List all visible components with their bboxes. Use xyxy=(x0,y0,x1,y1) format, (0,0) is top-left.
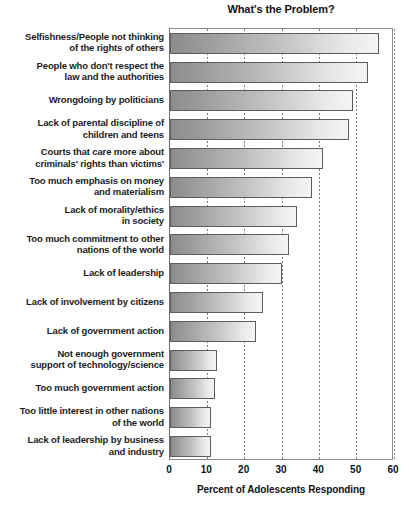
bar[interactable] xyxy=(170,33,379,54)
x-axis-tick-labels: 0102030405060 xyxy=(0,464,409,480)
bar[interactable] xyxy=(170,206,297,227)
bar-chart: What's the Problem? Selfishness/People n… xyxy=(0,0,409,509)
bar-row xyxy=(170,202,394,231)
bar[interactable] xyxy=(170,378,215,399)
category-label: Too much government action xyxy=(0,382,164,394)
x-tick-label-30: 30 xyxy=(261,464,301,475)
bar-row xyxy=(170,317,394,346)
bar[interactable] xyxy=(170,436,211,457)
x-tick-label-0: 0 xyxy=(149,464,189,475)
category-label: Lack of morality/ethics in society xyxy=(0,204,164,227)
category-label: Lack of government action xyxy=(0,325,164,337)
bar-row xyxy=(170,87,394,116)
bar[interactable] xyxy=(170,177,312,198)
bar-row xyxy=(170,432,394,461)
bar-row xyxy=(170,29,394,58)
plot-area xyxy=(169,28,393,460)
chart-title: What's the Problem? xyxy=(169,3,393,15)
bar-row xyxy=(170,115,394,144)
bar[interactable] xyxy=(170,350,217,371)
bar[interactable] xyxy=(170,321,256,342)
bar[interactable] xyxy=(170,407,211,428)
x-tick-label-60: 60 xyxy=(373,464,409,475)
bar-row xyxy=(170,288,394,317)
category-label: Too much commitment to other nations of … xyxy=(0,233,164,256)
bar-row xyxy=(170,375,394,404)
bars-container xyxy=(170,29,392,459)
bar[interactable] xyxy=(170,148,323,169)
category-label: Too little interest in other nations of … xyxy=(0,405,164,428)
category-label: Too much emphasis on money and materiali… xyxy=(0,175,164,198)
bar-row xyxy=(170,58,394,87)
category-label: Selfishness/People not thinking of the r… xyxy=(0,31,164,54)
bar[interactable] xyxy=(170,263,282,284)
category-label: People who don't respect the law and the… xyxy=(0,60,164,83)
category-label: Lack of leadership xyxy=(0,267,164,279)
category-label: Not enough government support of technol… xyxy=(0,348,164,371)
category-label: Wrongdoing by politicians xyxy=(0,94,164,106)
x-tick-label-50: 50 xyxy=(336,464,376,475)
x-tick-label-40: 40 xyxy=(298,464,338,475)
x-tick-label-20: 20 xyxy=(224,464,264,475)
bar[interactable] xyxy=(170,119,349,140)
x-tick-label-10: 10 xyxy=(186,464,226,475)
bar-row xyxy=(170,144,394,173)
category-axis-labels: Selfishness/People not thinking of the r… xyxy=(0,28,164,460)
category-label: Lack of leadership by business and indus… xyxy=(0,434,164,457)
category-label: Lack of parental discipline of children … xyxy=(0,117,164,140)
bar[interactable] xyxy=(170,292,263,313)
bar-row xyxy=(170,231,394,260)
bar[interactable] xyxy=(170,90,353,111)
category-label: Lack of involvement by citizens xyxy=(0,296,164,308)
bar-row xyxy=(170,403,394,432)
bar-row xyxy=(170,346,394,375)
bar[interactable] xyxy=(170,62,368,83)
bar-row xyxy=(170,173,394,202)
bar-row xyxy=(170,259,394,288)
x-axis-title: Percent of Adolescents Responding xyxy=(169,484,393,495)
bar[interactable] xyxy=(170,234,289,255)
category-label: Courts that care more about criminals' r… xyxy=(0,146,164,169)
